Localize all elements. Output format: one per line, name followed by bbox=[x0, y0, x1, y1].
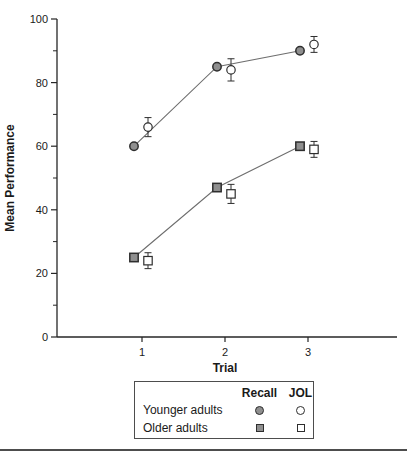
legend-label-younger-adults: Younger adults bbox=[143, 403, 239, 417]
x-tick-label: 2 bbox=[222, 346, 228, 358]
open-circle-marker bbox=[310, 40, 318, 48]
filled-circle-marker bbox=[296, 47, 304, 55]
open-square-marker bbox=[227, 190, 235, 198]
legend-marker-younger-recall bbox=[239, 406, 280, 415]
filled-circle-marker bbox=[130, 142, 138, 150]
legend-marker-younger-jol bbox=[280, 406, 321, 415]
open-square-icon bbox=[297, 424, 305, 432]
filled-circle-marker bbox=[213, 62, 221, 70]
open-circle-marker bbox=[227, 66, 235, 74]
x-tick-label: 3 bbox=[305, 346, 311, 358]
legend-box: Recall JOL Younger adults Older adults bbox=[134, 381, 314, 439]
y-tick-label: 100 bbox=[30, 13, 48, 25]
filled-square-marker bbox=[296, 142, 304, 150]
open-circle-marker bbox=[144, 123, 152, 131]
filled-square-marker bbox=[130, 253, 138, 261]
x-tick-label: 1 bbox=[139, 346, 145, 358]
y-tick-label: 0 bbox=[42, 331, 48, 343]
legend-header-jol: JOL bbox=[280, 386, 321, 400]
open-square-marker bbox=[144, 256, 152, 264]
filled-circle-icon bbox=[255, 406, 264, 415]
filled-square-marker bbox=[213, 183, 221, 191]
open-circle-icon bbox=[296, 406, 305, 415]
series-layer bbox=[130, 36, 318, 268]
y-tick-label: 20 bbox=[36, 267, 48, 279]
series-line bbox=[134, 146, 300, 257]
y-axis-title: Mean Performance bbox=[3, 124, 17, 232]
filled-square-icon bbox=[256, 424, 264, 432]
legend-marker-older-jol bbox=[280, 424, 321, 432]
y-tick-label: 80 bbox=[36, 77, 48, 89]
legend-marker-older-recall bbox=[239, 424, 280, 432]
x-axis-title: Trial bbox=[213, 361, 238, 375]
legend-label-older-adults: Older adults bbox=[143, 421, 239, 435]
y-tick-label: 60 bbox=[36, 140, 48, 152]
open-square-marker bbox=[310, 145, 318, 153]
bottom-rule bbox=[0, 449, 407, 451]
y-tick-label: 40 bbox=[36, 204, 48, 216]
legend-header-recall: Recall bbox=[239, 386, 280, 400]
